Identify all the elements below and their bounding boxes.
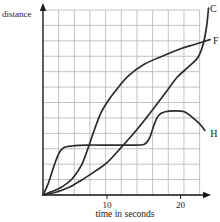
curve-label-C: C <box>210 3 217 14</box>
y-axis-title: distance <box>2 9 32 19</box>
x-axis-arrow-icon <box>203 192 211 198</box>
curve-F <box>43 40 210 195</box>
x-tick-label: 10 <box>103 200 113 210</box>
curve-label-F: F <box>213 35 219 46</box>
y-axis-arrow-icon <box>40 3 46 11</box>
x-tick-label: 20 <box>176 200 186 210</box>
curve-label-H: H <box>210 128 217 139</box>
chart-svg: 1020distancetime in secondsCFH <box>0 0 220 222</box>
distance-time-graph: 1020distancetime in secondsCFH <box>0 0 220 222</box>
x-axis-title: time in seconds <box>95 209 154 219</box>
